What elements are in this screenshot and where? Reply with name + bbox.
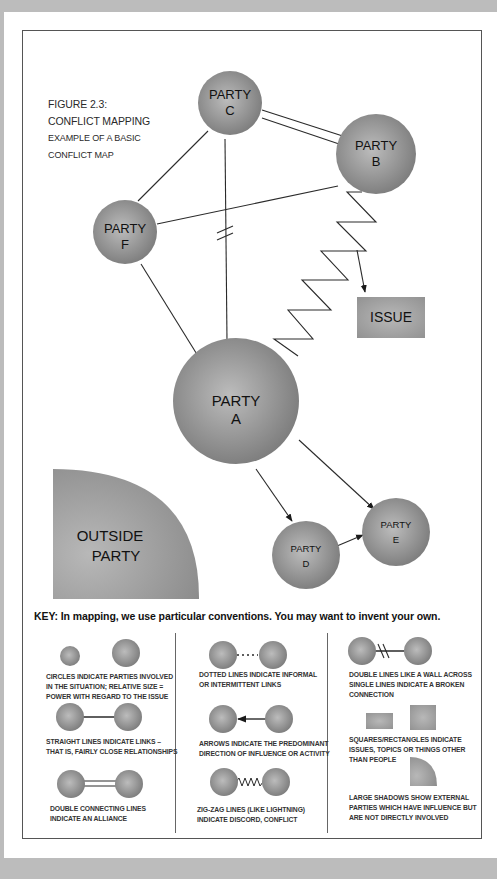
party-d-line1: PARTY xyxy=(291,541,322,556)
link-f-b xyxy=(157,186,338,224)
party-b-line2: B xyxy=(355,154,397,170)
party-f-line1: PARTY xyxy=(104,221,146,237)
figure-subtitle-2: CONFLICT MAP xyxy=(48,147,150,164)
key-text: IN THE SITUATION; RELATIVE SIZE = xyxy=(46,682,173,692)
figure-subtitle-1: EXAMPLE OF A BASIC xyxy=(48,130,150,147)
key-text: STRAIGHT LINES INDICATE LINKS – xyxy=(46,737,177,747)
party-a-label: PARTY A xyxy=(212,392,261,428)
key-item-broken-connection: DOUBLE LINES LIKE A WALL ACROSS SINGLE L… xyxy=(349,670,472,700)
party-d-label: PARTY D xyxy=(291,541,322,571)
key-item-dotted-lines: DOTTED LINES INDICATE INFORMAL OR INTERM… xyxy=(199,670,317,690)
party-d-line2: D xyxy=(291,556,322,571)
key-item-shadows: LARGE SHADOWS SHOW EXTERNAL PARTIES WHIC… xyxy=(349,793,477,823)
key-text: CONNECTION xyxy=(349,690,472,700)
figure-label: FIGURE 2.3: xyxy=(48,96,150,113)
key-text: DOUBLE LINES LIKE A WALL ACROSS xyxy=(349,670,472,680)
link-f-a xyxy=(141,264,198,356)
key-text: INDICATE DISCORD, CONFLICT xyxy=(197,815,305,825)
key-text: THAT IS, FAIRLY CLOSE RELATIONSHIPS xyxy=(46,747,177,757)
key-heading: KEY: In mapping, we use particular conve… xyxy=(34,610,440,622)
key-item-zigzag: ZIG-ZAG LINES (LIKE LIGHTNING) INDICATE … xyxy=(197,805,305,825)
party-c-label: PARTY C xyxy=(209,87,251,118)
key-text: ARROWS INDICATE THE PREDOMINANT xyxy=(199,739,330,749)
party-b-label: PARTY B xyxy=(355,138,397,169)
alliance-c-b xyxy=(262,110,352,139)
figure-title-block: FIGURE 2.3: CONFLICT MAPPING EXAMPLE OF … xyxy=(48,96,150,164)
key-text: DIRECTION OF INFLUENCE OR ACTIVITY xyxy=(199,749,330,759)
key-text: POWER WITH REGARD TO THE ISSUE xyxy=(46,692,173,702)
outside-party-line2: PARTY xyxy=(77,545,144,565)
party-b-line1: PARTY xyxy=(355,138,397,154)
figure-title: CONFLICT MAPPING xyxy=(48,113,150,130)
issue-label: ISSUE xyxy=(370,309,412,326)
party-e-line2: E xyxy=(381,532,412,547)
key-text: ISSUES, TOPICS OR THINGS OTHER xyxy=(349,745,465,755)
key-text: LARGE SHADOWS SHOW EXTERNAL xyxy=(349,793,477,803)
key-text: OR INTERMITTENT LINKS xyxy=(199,680,317,690)
key-item-straight-lines: STRAIGHT LINES INDICATE LINKS – THAT IS,… xyxy=(46,737,177,757)
arrow-b-issue xyxy=(357,250,365,292)
key-text: ZIG-ZAG LINES (LIKE LIGHTNING) xyxy=(197,805,305,815)
key-item-circles: CIRCLES INDICATE PARTIES INVOLVED IN THE… xyxy=(46,672,173,702)
party-e-line1: PARTY xyxy=(381,517,412,532)
outside-party-line1: OUTSIDE xyxy=(77,526,144,546)
key-item-rectangles: SQUARES/RECTANGLES INDICATE ISSUES, TOPI… xyxy=(349,735,465,765)
key-text: SQUARES/RECTANGLES INDICATE xyxy=(349,735,465,745)
arrow-d-e xyxy=(337,535,363,546)
key-icons xyxy=(56,637,437,798)
key-text: PARTIES WHICH HAVE INFLUENCE BUT xyxy=(349,803,477,813)
key-text: DOUBLE CONNECTING LINES xyxy=(50,804,146,814)
key-text: ARE NOT DIRECTLY INVOLVED xyxy=(349,813,477,823)
key-text: THAN PEOPLE xyxy=(349,755,465,765)
key-column-divider-1 xyxy=(175,633,176,833)
arrow-a-d xyxy=(256,469,292,521)
party-f-label: PARTY F xyxy=(104,221,146,252)
key-text: INDICATE AN ALLIANCE xyxy=(50,814,146,824)
key-text: DOTTED LINES INDICATE INFORMAL xyxy=(199,670,317,680)
key-item-arrows: ARROWS INDICATE THE PREDOMINANT DIRECTIO… xyxy=(199,739,330,759)
party-f-line2: F xyxy=(104,237,146,253)
party-c-line1: PARTY xyxy=(209,87,251,103)
outside-party-label: OUTSIDE PARTY xyxy=(77,526,144,565)
party-e-label: PARTY E xyxy=(381,517,412,547)
key-column-divider-2 xyxy=(327,633,328,833)
key-text: CIRCLES INDICATE PARTIES INVOLVED xyxy=(46,672,173,682)
link-c-a xyxy=(225,139,227,341)
party-a-line1: PARTY xyxy=(212,392,261,410)
arrow-a-e xyxy=(299,440,374,509)
key-item-double-lines: DOUBLE CONNECTING LINES INDICATE AN ALLI… xyxy=(50,804,146,824)
party-a-line2: A xyxy=(212,410,261,428)
party-c-line2: C xyxy=(209,103,251,119)
key-text: SINGLE LINES INDICATE A BROKEN xyxy=(349,680,472,690)
